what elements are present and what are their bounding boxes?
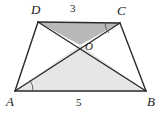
vertex-label-d: D (31, 3, 40, 16)
vertex-label-a: A (6, 95, 14, 108)
triangle-aob-shading (15, 45, 146, 91)
segment-dc (38, 22, 120, 23)
vertex-label-c: C (117, 4, 126, 17)
geometry-figure: D C A B O 3 5 (0, 0, 162, 114)
vertex-label-b: B (147, 95, 155, 108)
triangle-doc-shading (38, 22, 120, 45)
intersection-point-label-o: O (85, 41, 93, 52)
side-length-label-dc: 3 (70, 3, 76, 14)
side-length-label-ab: 5 (76, 97, 82, 108)
